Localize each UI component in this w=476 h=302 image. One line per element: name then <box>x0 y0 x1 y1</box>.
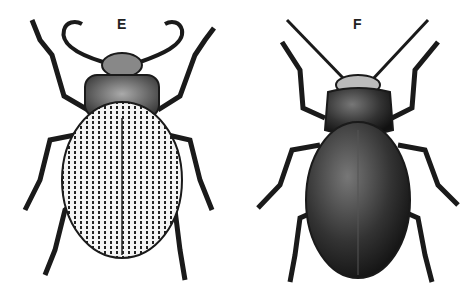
beetle-e <box>25 20 214 280</box>
beetle-f <box>258 20 458 282</box>
figure: E F <box>0 0 476 302</box>
beetle-illustrations <box>0 0 476 302</box>
